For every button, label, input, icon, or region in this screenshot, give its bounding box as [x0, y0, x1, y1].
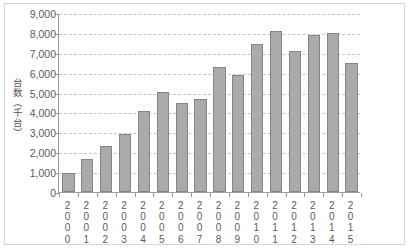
x-tick-label-digit: 1 [80, 234, 92, 245]
bar [345, 63, 357, 192]
x-tick-label-digit: 0 [99, 222, 111, 233]
x-tick-label-digit: 0 [307, 211, 319, 222]
x-tick-label-digit: 0 [269, 211, 281, 222]
x-tickmark [286, 193, 287, 197]
x-tick-label-digit: 0 [137, 222, 149, 233]
x-tick-label-digit: 1 [345, 222, 357, 233]
y-tick-label: 2,000 [24, 147, 56, 159]
x-tick-label-digit: 2 [156, 200, 168, 211]
y-tick-label: 0 [24, 187, 56, 199]
bar [289, 51, 301, 192]
y-tick-label: 4,000 [24, 107, 56, 119]
x-tick-label: 2014 [326, 200, 338, 245]
x-tick-label-digit: 0 [61, 234, 73, 245]
x-tick-label: 2013 [307, 200, 319, 245]
bar [100, 146, 112, 192]
x-tick-label: 2005 [156, 200, 168, 245]
bar [213, 67, 225, 192]
x-tick-label-digit: 0 [345, 211, 357, 222]
x-tick-label-digit: 0 [118, 222, 130, 233]
y-tick-label: 8,000 [24, 28, 56, 40]
x-tick-label-digit: 2 [61, 200, 73, 211]
x-tick-label: 2004 [137, 200, 149, 245]
y-tick-label: 9,000 [24, 8, 56, 20]
x-tick-label-digit: 0 [250, 234, 262, 245]
x-tickmark [153, 193, 154, 197]
x-tick-label-digit: 1 [250, 222, 262, 233]
x-tick-label-digit: 2 [231, 200, 243, 211]
x-tick-label-digit: 0 [99, 211, 111, 222]
x-tick-label-digit: 0 [212, 211, 224, 222]
x-tick-label-digit: 0 [156, 211, 168, 222]
x-tick-label-digit: 2 [269, 200, 281, 211]
x-tick-label-digit: 3 [307, 234, 319, 245]
x-tickmark [248, 193, 249, 197]
bars-layer [59, 14, 360, 192]
y-tick-label: 1,000 [24, 167, 56, 179]
x-tick-label-digit: 6 [175, 234, 187, 245]
x-tick-label-digit: 2 [99, 234, 111, 245]
x-tickmark [342, 193, 343, 197]
bar [176, 103, 188, 193]
x-tick-label-digit: 5 [156, 234, 168, 245]
x-tick-label-digit: 0 [156, 222, 168, 233]
x-tick-label: 2015 [345, 200, 357, 245]
x-tick-label-digit: 1 [288, 222, 300, 233]
x-tick-label: 2002 [99, 200, 111, 245]
plot-area [58, 14, 360, 193]
x-tick-label-digit: 2 [288, 200, 300, 211]
x-tickmark [267, 193, 268, 197]
y-axis-tick-labels: 9,0008,0007,0006,0005,0004,0003,0002,000… [24, 14, 56, 193]
x-tick-label-digit: 9 [231, 234, 243, 245]
bar [62, 173, 74, 192]
y-tick-label: 6,000 [24, 68, 56, 80]
y-tick-label: 5,000 [24, 88, 56, 100]
bar [251, 44, 263, 192]
x-tick-label-digit: 2 [307, 200, 319, 211]
x-tick-label-digit: 1 [269, 222, 281, 233]
x-tickmark [229, 193, 230, 197]
y-tick-label: 7,000 [24, 48, 56, 60]
x-tick-label-digit: 0 [250, 211, 262, 222]
x-tickmark [304, 193, 305, 197]
x-tick-label-digit: 0 [61, 222, 73, 233]
x-tick-label-digit: 0 [194, 222, 206, 233]
x-tickmark [59, 193, 60, 197]
x-tick-label-digit: 0 [61, 211, 73, 222]
y-axis-title: 台数（千台） [7, 62, 22, 154]
bar [270, 31, 282, 192]
x-tickmark [78, 193, 79, 197]
x-tick-label-digit: 0 [175, 211, 187, 222]
bar [119, 134, 131, 192]
x-tickmark [323, 193, 324, 197]
x-tick-label-digit: 2 [137, 200, 149, 211]
x-tickmark [210, 193, 211, 197]
x-tick-label-digit: 2 [345, 200, 357, 211]
x-tick-label-digit: 2 [99, 200, 111, 211]
x-tick-label-digit: 1 [307, 222, 319, 233]
x-tick-label-digit: 0 [212, 222, 224, 233]
bar [81, 159, 93, 192]
x-tickmark [191, 193, 192, 197]
x-tick-label: 2008 [212, 200, 224, 245]
x-tick-label: 2009 [231, 200, 243, 245]
x-tick-label-digit: 1 [269, 234, 281, 245]
x-tick-label-digit: 4 [326, 234, 338, 245]
bar-chart-figure: 台数（千台） 9,0008,0007,0006,0005,0004,0003,0… [0, 0, 410, 249]
x-tickmark [116, 193, 117, 197]
x-tick-label-digit: 0 [231, 222, 243, 233]
x-tick-label-digit: 0 [137, 211, 149, 222]
x-tick-label-digit: 0 [80, 222, 92, 233]
x-tick-label-digit: 2 [194, 200, 206, 211]
x-tick-label: 2003 [118, 200, 130, 245]
bar [232, 75, 244, 192]
x-tickmark [135, 193, 136, 197]
bar [157, 92, 169, 192]
x-tick-label-digit: 2 [288, 234, 300, 245]
x-tick-label: 2007 [194, 200, 206, 245]
y-tick-label: 3,000 [24, 127, 56, 139]
bar [138, 111, 150, 192]
x-tick-label: 2001 [80, 200, 92, 245]
x-axis-tick-labels: 2000200120022003200420052006200720082009… [58, 200, 360, 246]
x-tick-label: 2012 [288, 200, 300, 245]
